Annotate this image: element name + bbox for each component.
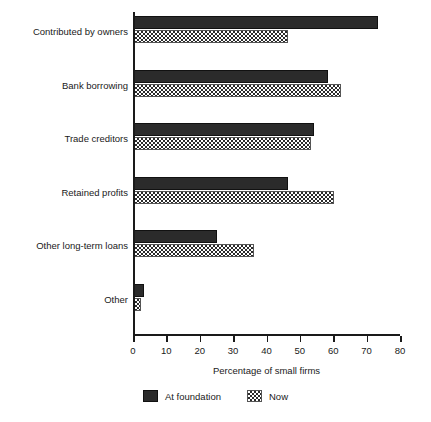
- bar-now: [134, 137, 311, 150]
- legend-label-now: Now: [269, 391, 288, 402]
- category-row: Contributed by owners: [0, 14, 431, 64]
- x-tick: [300, 336, 302, 342]
- bar-at-foundation: [134, 123, 314, 136]
- category-row: Retained profits: [0, 175, 431, 225]
- legend-item-now: Now: [247, 390, 288, 402]
- bar-at-foundation: [134, 70, 328, 83]
- bar-at-foundation: [134, 284, 144, 297]
- x-tick: [267, 336, 269, 342]
- category-row: Other: [0, 282, 431, 332]
- x-tick-label: 60: [328, 345, 339, 356]
- bar-at-foundation: [134, 230, 217, 243]
- category-label: Bank borrowing: [62, 80, 128, 92]
- bar-now: [134, 191, 334, 204]
- x-tick: [400, 336, 402, 342]
- legend-item-at-foundation: At foundation: [143, 390, 221, 402]
- x-tick: [333, 336, 335, 342]
- y-axis-line: [133, 12, 135, 334]
- category-label: Trade creditors: [64, 133, 128, 145]
- x-tick-label: 70: [361, 345, 372, 356]
- legend-label-at-foundation: At foundation: [165, 391, 221, 402]
- x-tick-label: 0: [130, 345, 135, 356]
- bar-now: [134, 30, 288, 43]
- category-label: Retained profits: [61, 187, 128, 199]
- category-label: Other long-term loans: [36, 240, 128, 252]
- x-tick-label: 50: [295, 345, 306, 356]
- bar-at-foundation: [134, 177, 288, 190]
- solid-black-swatch-icon: [143, 390, 158, 402]
- category-label: Other: [104, 294, 128, 306]
- bar-at-foundation: [134, 16, 378, 29]
- category-row: Other long-term loans: [0, 228, 431, 278]
- x-tick: [200, 336, 202, 342]
- chart-legend: At foundation Now: [0, 390, 431, 402]
- bar-now: [134, 84, 341, 97]
- checkered-swatch-icon: [247, 390, 262, 402]
- x-tick: [133, 336, 135, 342]
- x-tick-label: 10: [161, 345, 172, 356]
- category-label: Contributed by owners: [33, 26, 128, 38]
- x-tick-label: 40: [261, 345, 272, 356]
- x-tick-label: 80: [395, 345, 406, 356]
- category-row: Trade creditors: [0, 121, 431, 171]
- bar-chart: Contributed by ownersBank borrowingTrade…: [0, 0, 431, 422]
- bar-now: [134, 244, 254, 257]
- x-axis-title: Percentage of small firms: [133, 365, 400, 376]
- x-tick-label: 30: [228, 345, 239, 356]
- x-tick-label: 20: [194, 345, 205, 356]
- x-tick: [233, 336, 235, 342]
- category-row: Bank borrowing: [0, 68, 431, 118]
- bar-now: [134, 298, 141, 311]
- x-tick: [166, 336, 168, 342]
- x-tick: [367, 336, 369, 342]
